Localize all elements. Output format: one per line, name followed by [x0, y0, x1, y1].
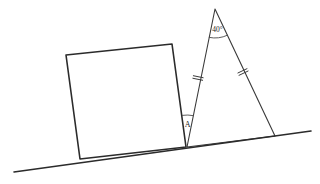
- isosceles-triangle: [187, 9, 275, 147]
- base-angle-arc: [182, 115, 193, 116]
- ground-line: [14, 131, 311, 172]
- apex-angle-arc: [209, 35, 227, 38]
- right-leg-congruence-ticks: [238, 69, 248, 76]
- apex-angle-label: 40°: [212, 25, 223, 34]
- geometry-diagram: 40° A: [0, 0, 320, 184]
- base-angle-label: A: [185, 120, 191, 129]
- geometry-figure-canvas: 40° A: [0, 0, 320, 184]
- shaded-square: [66, 44, 186, 159]
